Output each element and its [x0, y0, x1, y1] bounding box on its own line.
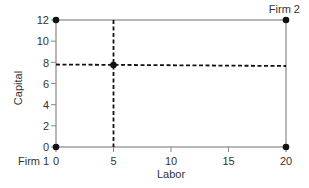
y-tick-label: 10	[37, 35, 49, 47]
y-tick-label: 8	[43, 57, 49, 69]
firm2-origin-point	[283, 17, 290, 24]
x-axis	[56, 147, 286, 152]
firm2-label: Firm 2	[269, 3, 300, 15]
firm1-label: Firm 1	[18, 155, 49, 167]
firm1-origin-point	[53, 144, 60, 151]
allocation-point	[110, 62, 117, 69]
y-axis	[51, 20, 56, 147]
y-tick-label: 6	[43, 78, 49, 90]
x-tick-label: 0	[53, 155, 59, 167]
corner-point	[283, 144, 290, 151]
x-tick-label: 15	[222, 155, 234, 167]
edgeworth-box-chart: 0 2 4 6 8 10 12 0 5 10 15 20 Labor Capit…	[0, 0, 309, 188]
horizontal-dashed-line	[56, 65, 286, 67]
y-tick-label: 2	[43, 120, 49, 132]
y-tick-label: 12	[37, 14, 49, 26]
y-axis-title: Capital	[12, 71, 24, 105]
box-outline	[56, 20, 286, 147]
x-tick-label: 5	[110, 155, 116, 167]
x-axis-title: Labor	[157, 168, 185, 180]
x-tick-label: 20	[280, 155, 292, 167]
y-tick-label: 4	[43, 99, 49, 111]
y-tick-label: 0	[43, 141, 49, 153]
x-tick-label: 10	[165, 155, 177, 167]
corner-point	[53, 17, 60, 24]
